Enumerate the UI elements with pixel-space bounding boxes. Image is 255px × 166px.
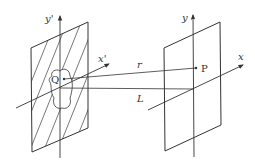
diffraction-diagram: y' x' Q r L y x P — [0, 0, 255, 166]
point-p — [195, 67, 197, 69]
hatching — [20, 10, 142, 160]
observation-plane-border — [164, 22, 221, 151]
y-label: y — [181, 12, 188, 23]
r-line — [64, 68, 196, 79]
x-prime-label: x' — [98, 53, 106, 64]
x-axis — [148, 65, 243, 110]
L-line — [60, 88, 194, 89]
point-q-label: Q — [51, 74, 59, 85]
x-label: x — [238, 51, 244, 62]
observation-plane: y x P — [148, 12, 244, 157]
aperture-plane: y' x' Q — [16, 10, 142, 160]
y-prime-label: y' — [44, 13, 53, 24]
y-axis — [193, 15, 194, 157]
point-p-label: P — [201, 63, 208, 74]
L-label: L — [136, 93, 144, 104]
r-label: r — [137, 59, 143, 70]
